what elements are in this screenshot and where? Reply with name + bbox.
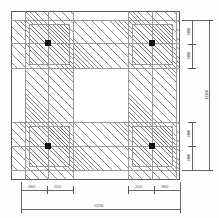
bottom-dim-label-2: 2100 (54, 186, 61, 189)
column-marker-top-left (45, 40, 51, 46)
pad-outline-br-right (172, 126, 173, 166)
grid-line-v-4 (128, 11, 129, 180)
pad-outline-bl-top (29, 126, 69, 127)
right-dim-tick-4 (188, 122, 196, 123)
pad-outline-tl-left (29, 24, 30, 64)
grid-line-h-4 (11, 122, 180, 123)
grid-line-v-6 (176, 11, 177, 180)
bottom-overall-ext-right (180, 182, 181, 209)
pad-outline-br-top (132, 126, 172, 127)
edge-void-top-centre (73, 12, 128, 20)
edge-void-bottom-centre (73, 170, 128, 179)
column-marker-bottom-right (149, 143, 155, 149)
pad-outline-tr-bottom (132, 64, 172, 65)
right-dim-tick-5 (188, 146, 196, 147)
pad-outline-br-left (132, 126, 133, 166)
bottom-overall-dim-label: 12190 (94, 205, 104, 208)
right-overall-dim-label: 12190 (206, 90, 209, 100)
bottom-dim-tick-4 (128, 186, 129, 194)
central-opening (73, 68, 128, 122)
column-marker-top-right (149, 40, 155, 46)
right-dim-tick-3 (188, 68, 196, 69)
grid-line-h-6 (11, 170, 180, 171)
edge-void-left-centre (12, 68, 25, 122)
pad-outline-tr-right (172, 24, 173, 64)
drawing-sheet: 1800 2100 2100 1800 12190 1800 1800 1800… (0, 0, 219, 218)
slab-outline-right (179, 11, 180, 180)
column-marker-bottom-left (45, 143, 51, 149)
corner-void-top-left (12, 12, 25, 20)
bottom-dim-tick-3 (73, 186, 74, 194)
pad-outline-tl-bottom (29, 64, 69, 65)
grid-line-v-3 (73, 11, 74, 180)
grid-line-v-2 (48, 11, 49, 180)
right-dim-tick-2 (188, 44, 196, 45)
right-dim-label-1: 1800 (188, 28, 191, 35)
pad-outline-tr-top (132, 24, 172, 25)
pad-outline-br-bottom (132, 166, 172, 167)
corner-void-bottom-left (12, 170, 25, 179)
bottom-dim-tick-2 (47, 186, 48, 194)
pad-outline-tr-left (132, 24, 133, 64)
grid-line-v-5 (152, 11, 153, 180)
right-overall-ext-bottom (182, 170, 209, 171)
right-dim-label-3: 1800 (188, 130, 191, 137)
right-dim-label-4: 1800 (188, 154, 191, 161)
pad-outline-bl-left (29, 126, 30, 166)
pad-outline-bl-right (69, 126, 70, 166)
pad-outline-tl-top (29, 24, 69, 25)
pad-outline-tl-right (69, 24, 70, 64)
bottom-dim-label-3: 2100 (135, 186, 142, 189)
grid-line-v-1 (25, 11, 26, 180)
bottom-dim-label-1: 1800 (28, 186, 35, 189)
right-dim-label-2: 1800 (188, 52, 191, 59)
grid-line-h-3 (11, 68, 180, 69)
slab-outline-bottom (11, 179, 180, 180)
right-overall-ext-top (182, 20, 209, 21)
bottom-dim-label-4: 1800 (161, 186, 168, 189)
pad-outline-bl-bottom (29, 166, 69, 167)
bottom-overall-dim-line (21, 209, 180, 210)
grid-line-h-1 (11, 20, 180, 21)
bottom-overall-ext-left (21, 182, 22, 209)
bottom-dim-tick-5 (154, 186, 155, 194)
